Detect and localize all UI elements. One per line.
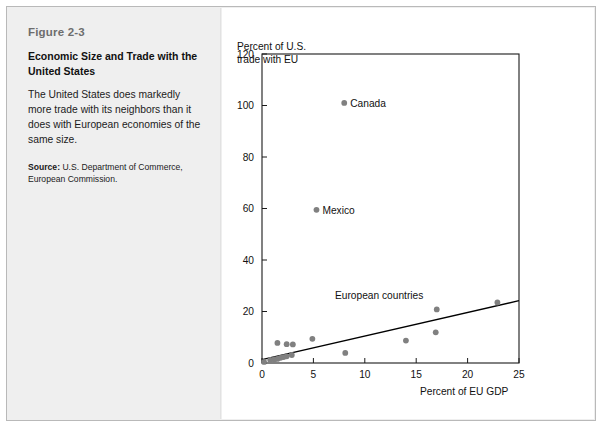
source-label: Source:	[28, 162, 60, 172]
y-axis-tick-label: 20	[243, 306, 255, 317]
data-point	[342, 350, 348, 356]
y-axis-tick-label: 0	[248, 358, 254, 369]
point-annotation: Canada	[350, 98, 386, 109]
figure-root: Figure 2-3 Economic Size and Trade with …	[0, 0, 604, 429]
data-point	[433, 329, 439, 335]
figure-description: The United States does markedly more tra…	[28, 87, 204, 147]
series-annotation: European countries	[335, 290, 423, 301]
y-axis-tick-label: 60	[243, 203, 255, 214]
data-point	[289, 352, 295, 358]
figure-number: Figure 2-3	[28, 26, 204, 40]
y-axis-tick-label: 40	[243, 255, 255, 266]
y-axis-tick-label: 100	[237, 100, 254, 111]
x-axis-tick-label: 10	[359, 369, 371, 380]
y-axis-tick-label: 80	[243, 152, 255, 163]
data-point	[290, 342, 296, 348]
caption-panel: Figure 2-3 Economic Size and Trade with …	[8, 8, 220, 419]
trendline	[262, 301, 519, 360]
chart-panel: Percent of U.S. trade with EU Percent of…	[222, 8, 594, 419]
x-axis-tick-label: 0	[259, 369, 265, 380]
data-point	[275, 340, 281, 346]
scatter-plot: 0204060801001200510152025CanadaMexicoEur…	[222, 8, 594, 419]
figure-source: Source: U.S. Department of Commerce, Eur…	[28, 161, 204, 185]
data-point	[261, 359, 267, 365]
data-point	[284, 353, 290, 359]
data-point	[341, 100, 347, 106]
x-axis-tick-label: 25	[513, 369, 525, 380]
chart-inner: Percent of U.S. trade with EU Percent of…	[222, 8, 594, 419]
data-point	[434, 307, 440, 313]
data-point	[403, 338, 409, 344]
plot-frame	[262, 54, 519, 363]
figure-title: Economic Size and Trade with the United …	[28, 49, 204, 79]
data-point	[495, 300, 501, 306]
y-axis-tick-label: 120	[237, 49, 254, 60]
x-axis-tick-label: 20	[462, 369, 474, 380]
x-axis-tick-label: 15	[411, 369, 423, 380]
data-point	[309, 336, 315, 342]
x-axis-tick-label: 5	[311, 369, 317, 380]
data-point	[284, 341, 290, 347]
panel-divider	[220, 8, 221, 419]
point-annotation: Mexico	[322, 205, 355, 216]
data-point	[314, 207, 320, 213]
